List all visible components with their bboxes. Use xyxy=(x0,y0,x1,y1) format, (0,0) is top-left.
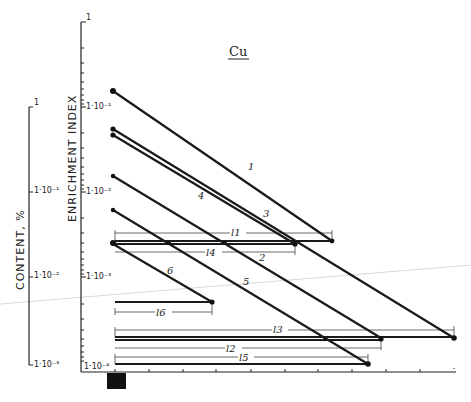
series-points xyxy=(110,88,457,367)
series-lines xyxy=(113,91,454,364)
left-tick-1e-3: 1·10⁻³ xyxy=(34,360,59,369)
right-tick-1e-4: 1·10⁻⁴ xyxy=(84,362,109,371)
right-axis-title: ENRICHMENT INDEX xyxy=(66,95,79,222)
series-2-line xyxy=(113,176,381,338)
series-label-4: 4 xyxy=(197,190,204,201)
length-label-l5: l5 xyxy=(239,352,249,363)
chart-title: Cu xyxy=(229,44,247,59)
left-tick-1: 1 xyxy=(34,98,39,107)
right-tick-1e-3: 1·10⁻³ xyxy=(86,272,111,281)
series-1-line xyxy=(113,91,332,241)
series-label-2: 2 xyxy=(258,252,265,263)
length-label-l4: l4 xyxy=(206,247,216,258)
right-tick-1e-1: 1·10⁻¹ xyxy=(86,102,111,111)
chart: Cu 1 1·10⁻¹ 1·10⁻² 1·10⁻³ CONTENT, % 1 1… xyxy=(0,0,471,402)
left-tick-1e-1: 1·10⁻¹ xyxy=(34,186,59,195)
right-tick-1: 1 xyxy=(86,13,91,22)
series-label-5: 5 xyxy=(243,276,249,287)
series-label-3: 3 xyxy=(263,208,269,219)
origin-marker xyxy=(107,373,126,389)
length-label-l1: l1 xyxy=(231,227,241,238)
right-tick-1e-2: 1·10⁻² xyxy=(86,187,111,196)
length-label-l2: l2 xyxy=(226,343,236,354)
length-label-l6: l6 xyxy=(156,307,166,318)
length-dimensions xyxy=(115,230,454,364)
series-label-6: 6 xyxy=(167,265,174,276)
horizontal-lines xyxy=(115,241,454,364)
left-axis: 1 1·10⁻¹ 1·10⁻² 1·10⁻³ CONTENT, % xyxy=(14,98,59,369)
series-label-1: 1 xyxy=(248,161,254,172)
left-axis-title: CONTENT, % xyxy=(14,209,27,290)
length-label-l3: l3 xyxy=(273,324,283,335)
left-tick-1e-2: 1·10⁻² xyxy=(34,271,59,280)
